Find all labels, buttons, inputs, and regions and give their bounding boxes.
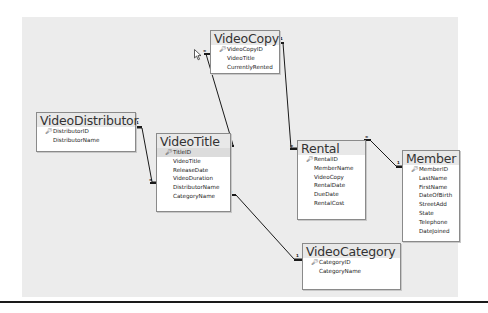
- table-title[interactable]: Rental: [298, 141, 365, 155]
- field-name: DistributorName: [53, 137, 99, 143]
- field-row[interactable]: DateJoined: [403, 227, 459, 236]
- field-name: VideoTitle: [227, 55, 255, 61]
- field-name: CategoryName: [173, 193, 215, 199]
- field-name: RentalCost: [314, 200, 344, 206]
- table-member[interactable]: Member 🔑︎MemberID LastName FirstName Dat…: [402, 150, 460, 242]
- table-title[interactable]: Member: [403, 151, 459, 165]
- field-name: DateJoined: [419, 228, 450, 234]
- field-name: CategoryID: [319, 259, 351, 265]
- table-title[interactable]: VideoDistributor: [37, 113, 135, 127]
- divider-line: [0, 301, 488, 303]
- field-row[interactable]: MemberName: [298, 164, 365, 173]
- field-row[interactable]: CurrentlyRented: [211, 63, 279, 72]
- key-icon: 🔑︎: [219, 45, 227, 53]
- field-row[interactable]: VideoCopy: [298, 173, 365, 182]
- cardinality-one: 1: [397, 161, 400, 165]
- field-row[interactable]: 🔑︎CategoryID: [303, 258, 400, 267]
- field-row[interactable]: DistributorName: [157, 183, 230, 192]
- field-row[interactable]: DateOfBirth: [403, 191, 459, 200]
- table-title[interactable]: VideoTitle: [157, 134, 230, 148]
- field-name: VideoCopyID: [227, 46, 263, 52]
- field-name: CategoryName: [319, 268, 361, 274]
- key-icon: 🔑︎: [165, 148, 173, 156]
- field-name: VideoTitle: [173, 158, 201, 164]
- field-name: Telephone: [419, 219, 447, 225]
- field-row[interactable]: VideoDuration: [157, 174, 230, 183]
- field-name: DueDate: [314, 191, 339, 197]
- field-name: VideoDuration: [173, 175, 213, 181]
- field-name: TitleID: [173, 149, 191, 155]
- field-name: StreetAdd: [419, 201, 447, 207]
- table-title[interactable]: VideoCopy: [211, 31, 279, 45]
- field-row[interactable]: 🔑︎DistributorID: [37, 127, 135, 136]
- field-row[interactable]: VideoTitle: [157, 157, 230, 166]
- field-row[interactable]: 🔑︎VideoCopyID: [211, 45, 279, 54]
- table-videocopy[interactable]: VideoCopy 🔑︎VideoCopyID VideoTitle Curre…: [210, 30, 280, 74]
- cardinality-one: 1: [280, 37, 283, 41]
- field-row[interactable]: ReleaseDate: [157, 166, 230, 175]
- field-row[interactable]: StreetAdd: [403, 200, 459, 209]
- field-name: DateOfBirth: [419, 192, 452, 198]
- key-icon: 🔑︎: [45, 127, 53, 135]
- cardinality-many: ∞: [290, 144, 293, 148]
- field-row[interactable]: LastName: [403, 174, 459, 183]
- key-icon: 🔑︎: [306, 155, 314, 163]
- field-name: LastName: [419, 175, 447, 181]
- field-name: DistributorName: [173, 184, 219, 190]
- mouse-cursor-icon: [194, 49, 202, 61]
- key-icon: 🔑︎: [311, 258, 319, 266]
- field-name: State: [419, 210, 434, 216]
- field-row[interactable]: VideoTitle: [211, 54, 279, 63]
- field-name: CurrentlyRented: [227, 64, 273, 70]
- field-row[interactable]: RentalCost: [298, 199, 365, 208]
- field-row[interactable]: DistributorName: [37, 136, 135, 145]
- table-videocategory[interactable]: VideoCategory 🔑︎CategoryID CategoryName: [302, 243, 401, 290]
- field-name: ReleaseDate: [173, 167, 208, 173]
- field-name: RentalDate: [314, 182, 345, 188]
- field-name: MemberName: [314, 165, 354, 171]
- field-name: DistributorID: [53, 128, 89, 134]
- field-row[interactable]: CategoryName: [157, 192, 230, 201]
- field-row[interactable]: 🔑︎MemberID: [403, 165, 459, 174]
- field-name: FirstName: [419, 184, 447, 190]
- cardinality-one: 1: [296, 254, 299, 258]
- cardinality-many: ∞: [149, 178, 152, 182]
- field-row[interactable]: RentalDate: [298, 181, 365, 190]
- table-videodistributor[interactable]: VideoDistributor 🔑︎DistributorID Distrib…: [36, 112, 136, 152]
- table-rental[interactable]: Rental 🔑︎RentalID MemberName VideoCopy R…: [297, 140, 366, 220]
- field-row[interactable]: State: [403, 209, 459, 218]
- field-row[interactable]: 🔑︎TitleID: [157, 148, 230, 157]
- cardinality-many: ∞: [203, 49, 206, 53]
- field-row[interactable]: 🔑︎RentalID: [298, 155, 365, 164]
- field-name: VideoCopy: [314, 174, 344, 180]
- cardinality-many: ∞: [365, 135, 368, 139]
- field-row[interactable]: Telephone: [403, 218, 459, 227]
- field-row[interactable]: CategoryName: [303, 267, 400, 276]
- field-row[interactable]: DueDate: [298, 190, 365, 199]
- key-icon: 🔑︎: [411, 165, 419, 173]
- field-name: RentalID: [314, 156, 338, 162]
- field-row[interactable]: FirstName: [403, 183, 459, 192]
- table-title[interactable]: VideoCategory: [303, 244, 400, 258]
- field-name: MemberID: [419, 166, 448, 172]
- table-videotitle[interactable]: VideoTitle 🔑︎TitleID VideoTitle ReleaseD…: [156, 133, 231, 212]
